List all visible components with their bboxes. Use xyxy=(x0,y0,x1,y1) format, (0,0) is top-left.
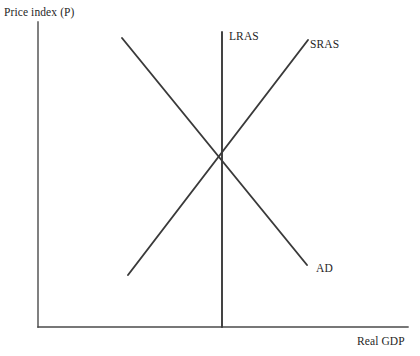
sras-curve-label: SRAS xyxy=(310,38,339,51)
y-axis-label: Price index (P) xyxy=(4,6,74,19)
lras-curve-label: LRAS xyxy=(229,30,259,43)
plot-area xyxy=(0,0,420,356)
sras-curve xyxy=(128,40,308,275)
ad-as-diagram: Price index (P) Real GDP LRAS SRAS AD xyxy=(0,0,420,356)
ad-curve xyxy=(122,38,307,265)
x-axis-label: Real GDP xyxy=(357,335,405,348)
ad-curve-label: AD xyxy=(316,262,333,275)
